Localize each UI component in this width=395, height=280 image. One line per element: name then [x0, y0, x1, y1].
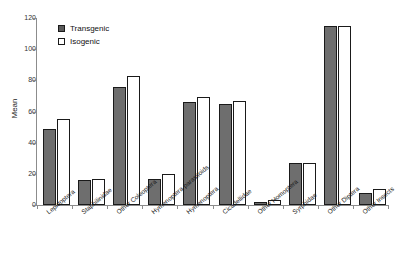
- x-tick: [142, 205, 143, 209]
- bar-group: [219, 18, 246, 205]
- bar-transgenic: [219, 104, 232, 205]
- y-tick: 60: [0, 112, 36, 113]
- legend-item-transgenic: Transgenic: [58, 22, 109, 34]
- bar-group: [254, 18, 281, 205]
- filled-square-icon: [58, 25, 65, 32]
- open-square-icon: [58, 38, 65, 45]
- x-tick: [283, 205, 284, 209]
- x-tick: [248, 205, 249, 209]
- bar-isogenic: [338, 26, 351, 205]
- bar-transgenic: [324, 26, 337, 205]
- bar-group: [113, 18, 140, 205]
- y-tick: 120: [0, 18, 36, 19]
- x-tick: [37, 205, 38, 209]
- y-tick: 40: [0, 143, 36, 144]
- y-tick-mark: [32, 112, 36, 113]
- bar-isogenic: [127, 76, 140, 205]
- x-tick: [353, 205, 354, 209]
- x-tick: [388, 205, 389, 209]
- x-tick: [72, 205, 73, 209]
- bar-transgenic: [183, 102, 196, 205]
- x-tick: [177, 205, 178, 209]
- y-tick: 80: [0, 80, 36, 81]
- y-tick: 0: [0, 205, 36, 206]
- y-tick-mark: [32, 49, 36, 50]
- x-tick: [318, 205, 319, 209]
- bar-transgenic: [43, 129, 56, 205]
- y-tick-mark: [32, 80, 36, 81]
- x-tick: [107, 205, 108, 209]
- y-tick-mark: [32, 174, 36, 175]
- bar-group: [359, 18, 386, 205]
- legend-label-isogenic: Isogenic: [70, 37, 100, 46]
- bar-group: [289, 18, 316, 205]
- legend-label-transgenic: Transgenic: [70, 24, 109, 33]
- bar-group: [324, 18, 351, 205]
- y-tick-mark: [32, 18, 36, 19]
- x-tick: [213, 205, 214, 209]
- legend-item-isogenic: Isogenic: [58, 35, 109, 47]
- y-tick: 20: [0, 174, 36, 175]
- y-tick-mark: [32, 143, 36, 144]
- bar-chart: Mean 020406080100120 LepidopteraStaphili…: [0, 0, 395, 280]
- chart-legend: Transgenic Isogenic: [58, 22, 109, 48]
- y-tick: 100: [0, 49, 36, 50]
- bar-transgenic: [113, 87, 126, 205]
